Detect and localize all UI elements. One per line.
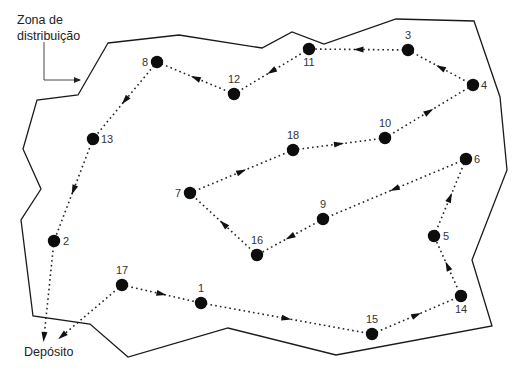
delivery-route — [44, 49, 473, 337]
stop-number-label: 10 — [379, 117, 391, 129]
stop-number-label: 3 — [405, 29, 411, 41]
direction-arrow-icon — [436, 65, 446, 72]
stop-number-label: 7 — [175, 187, 181, 199]
depot-label: Depósito — [24, 345, 73, 359]
direction-arrow-icon — [334, 142, 344, 148]
direction-arrow-icon — [267, 66, 277, 74]
direction-arrow-icon — [354, 47, 364, 53]
stop-number-label: 8 — [142, 56, 148, 68]
distribution-zone-boundary — [21, 19, 507, 357]
delivery-stops: 123456789101112131415161718 — [48, 29, 487, 340]
direction-arrow-icon — [42, 332, 48, 342]
stop-number-label: 14 — [455, 303, 467, 315]
direction-arrow-icon — [281, 315, 291, 321]
stop-marker-icon — [460, 153, 472, 165]
direction-arrow-icon — [156, 290, 166, 296]
route-direction-arrows — [42, 47, 453, 342]
stop-15: 15 — [366, 313, 378, 340]
zone-boundary-polygon — [21, 19, 507, 357]
stop-6: 6 — [460, 153, 480, 165]
stop-11: 11 — [303, 43, 315, 68]
direction-arrow-icon — [411, 313, 421, 320]
direction-arrow-icon — [390, 184, 400, 191]
stop-number-label: 13 — [101, 133, 113, 145]
stop-marker-icon — [87, 133, 99, 145]
direction-arrow-icon — [236, 170, 246, 177]
stop-number-label: 1 — [198, 282, 204, 294]
stop-marker-icon — [467, 79, 479, 91]
stop-number-label: 15 — [366, 313, 378, 325]
direction-arrow-icon — [445, 193, 452, 203]
stop-marker-icon — [251, 249, 263, 261]
stop-marker-icon — [184, 187, 196, 199]
stop-17: 17 — [116, 264, 128, 291]
stop-12: 12 — [228, 73, 240, 100]
stop-marker-icon — [455, 290, 467, 302]
stop-7: 7 — [175, 187, 196, 199]
direction-arrow-icon — [191, 76, 201, 83]
stop-16: 16 — [251, 234, 263, 261]
stop-number-label: 9 — [320, 198, 326, 210]
stop-marker-icon — [151, 56, 163, 68]
stop-number-label: 17 — [116, 264, 128, 276]
zone-pointer-arrow-icon — [44, 42, 80, 80]
stop-5: 5 — [428, 230, 449, 242]
stop-10: 10 — [379, 117, 391, 144]
stop-marker-icon — [317, 213, 329, 225]
stop-marker-icon — [379, 132, 391, 144]
route-segment — [62, 285, 122, 336]
vehicle-routing-diagram: 123456789101112131415161718 Zona de dist… — [0, 0, 522, 376]
route-segment — [44, 241, 54, 337]
stop-number-label: 16 — [251, 234, 263, 246]
stop-1: 1 — [195, 282, 207, 309]
stop-marker-icon — [428, 230, 440, 242]
zone-label: Zona de distribuição — [17, 13, 81, 83]
stop-marker-icon — [402, 44, 414, 56]
stop-number-label: 11 — [303, 56, 314, 68]
stop-number-label: 18 — [287, 129, 299, 141]
stop-18: 18 — [287, 129, 299, 156]
stop-marker-icon — [303, 43, 315, 55]
stop-3: 3 — [402, 29, 414, 56]
stop-number-label: 5 — [443, 230, 449, 242]
zone-label-line2: distribuição — [17, 29, 80, 43]
stop-marker-icon — [116, 279, 128, 291]
direction-arrow-icon — [72, 184, 78, 194]
stop-marker-icon — [287, 144, 299, 156]
stop-2: 2 — [48, 235, 69, 247]
stop-9: 9 — [317, 198, 329, 225]
direction-arrow-icon — [423, 109, 433, 117]
stop-marker-icon — [366, 328, 378, 340]
stop-marker-icon — [195, 297, 207, 309]
stop-13: 13 — [87, 133, 113, 145]
direction-arrow-icon — [445, 261, 452, 271]
zone-pointer-arrowhead-icon — [74, 77, 81, 83]
stop-14: 14 — [455, 290, 467, 315]
stop-number-label: 12 — [228, 73, 240, 85]
zone-label-line1: Zona de — [17, 13, 63, 27]
stop-marker-icon — [228, 88, 240, 100]
stop-4: 4 — [467, 79, 487, 91]
stop-number-label: 2 — [63, 235, 69, 247]
stop-number-label: 6 — [474, 153, 480, 165]
stop-number-label: 4 — [481, 79, 487, 91]
stop-marker-icon — [48, 235, 60, 247]
direction-arrow-icon — [286, 232, 296, 239]
